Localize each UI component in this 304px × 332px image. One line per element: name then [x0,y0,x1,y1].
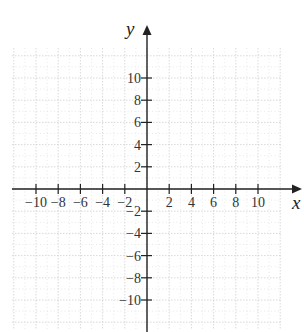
coordinate-plane: −10−8−6−4−2246810108642−2−4−6−8−10 x y [0,0,304,332]
y-axis-arrow-icon [143,25,152,35]
y-tick-label: −10 [119,293,141,308]
x-tick-label: −10 [25,195,47,210]
y-tick-label: 2 [134,160,141,175]
x-tick-label: −8 [51,195,66,210]
x-tick-label: −6 [73,195,88,210]
y-tick-label: 4 [134,138,141,153]
x-tick-label: 10 [251,195,265,210]
x-tick-label: −4 [95,195,110,210]
y-axis-label: y [124,18,135,39]
y-tick-label: −2 [126,204,141,219]
x-axis-label: x [291,192,301,213]
y-tick-label: −8 [126,271,141,286]
x-tick-label: 8 [232,195,239,210]
y-tick-label: −6 [126,249,141,264]
y-tick-label: 6 [134,115,141,130]
y-tick-label: 8 [134,93,141,108]
x-tick-label: 2 [166,195,173,210]
x-tick-label: 4 [188,195,195,210]
y-tick-label: −4 [126,226,141,241]
axes [12,25,302,332]
x-tick-label: 6 [210,195,217,210]
y-tick-label: 10 [127,71,141,86]
